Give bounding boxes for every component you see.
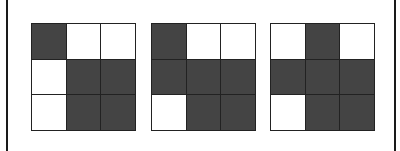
- pattern-grid-3: [270, 23, 375, 131]
- empty-cell-r0-c0: [271, 24, 305, 59]
- filled-cell-r1-c2: [340, 60, 374, 95]
- empty-cell-r2-c0: [271, 95, 305, 130]
- filled-cell-r1-c1: [306, 60, 340, 95]
- frame-right-border: [394, 0, 396, 151]
- filled-cell-r1-c0: [152, 60, 186, 95]
- filled-cell-r2-c2: [101, 95, 135, 130]
- empty-cell-r2-c0: [32, 95, 66, 130]
- empty-cell-r1-c0: [32, 60, 66, 95]
- empty-cell-r2-c0: [152, 95, 186, 130]
- filled-cell-r2-c1: [306, 95, 340, 130]
- filled-cell-r1-c2: [221, 60, 255, 95]
- filled-cell-r2-c1: [67, 95, 101, 130]
- filled-cell-r2-c1: [187, 95, 221, 130]
- filled-cell-r2-c2: [221, 95, 255, 130]
- empty-cell-r0-c1: [187, 24, 221, 59]
- filled-cell-r0-c0: [32, 24, 66, 59]
- empty-cell-r0-c2: [340, 24, 374, 59]
- empty-cell-r0-c2: [221, 24, 255, 59]
- frame-left-border: [6, 0, 8, 151]
- filled-cell-r2-c2: [340, 95, 374, 130]
- empty-cell-r0-c1: [67, 24, 101, 59]
- filled-cell-r0-c0: [152, 24, 186, 59]
- filled-cell-r1-c1: [67, 60, 101, 95]
- filled-cell-r1-c2: [101, 60, 135, 95]
- filled-cell-r1-c0: [271, 60, 305, 95]
- pattern-grid-2: [151, 23, 256, 131]
- filled-cell-r1-c1: [187, 60, 221, 95]
- filled-cell-r0-c1: [306, 24, 340, 59]
- empty-cell-r0-c2: [101, 24, 135, 59]
- pattern-grid-1: [31, 23, 136, 131]
